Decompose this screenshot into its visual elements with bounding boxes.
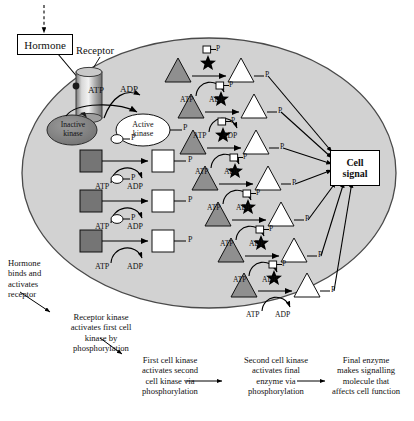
triangle-row-p: P <box>280 143 284 152</box>
triangle-row-catalyst-p: P <box>282 260 286 268</box>
caption-line: Final enzyme <box>321 355 411 365</box>
square-row-adp: ADP <box>127 263 143 272</box>
triangle-row-atp: ATP <box>246 311 260 320</box>
square-row-atp: ATP <box>95 183 109 192</box>
active-kinase-label: Active kinase <box>122 121 164 139</box>
square-row-catalyst-p: P <box>131 134 135 143</box>
caption-line: affects cell function <box>321 386 411 396</box>
square-row-p: P <box>188 196 192 205</box>
caption-line: kinase by <box>47 333 155 343</box>
triangle-row-catalyst-p: P <box>231 117 235 125</box>
caption-receptor-kinase: Receptor kinase activates first cell kin… <box>47 312 155 353</box>
square-row-p: P <box>188 156 192 165</box>
square-row-catalyst-p: P <box>131 174 135 183</box>
square-row-adp: ADP <box>127 183 143 192</box>
caption-line: Hormone <box>8 258 82 268</box>
square-row-catalyst-p: P <box>131 214 135 223</box>
receptor-adp-label: ADP <box>120 84 138 94</box>
cell-signal-box[interactable]: Cell signal <box>330 150 380 186</box>
triangle-row-p: P <box>305 215 309 224</box>
caption-line: Second cell kinase <box>226 355 326 365</box>
caption-line: activates <box>8 279 82 289</box>
triangle-row-p: P <box>331 286 335 295</box>
triangle-row-p: P <box>278 107 282 116</box>
triangle-row-atp: ATP <box>220 240 234 249</box>
triangle-row-p: P <box>265 71 269 80</box>
caption-line: phosphorylation <box>118 386 222 396</box>
caption-line: phosphorylation <box>226 386 326 396</box>
triangle-row-adp: ADP <box>275 311 290 320</box>
caption-line: activates final <box>226 365 326 375</box>
active-kinase-phosphate: P <box>183 124 187 133</box>
caption-line: molecule that <box>321 376 411 386</box>
square-row-adp: ADP <box>127 223 143 232</box>
triangle-row-atp: ATP <box>180 96 194 105</box>
inactive-kinase-line2: kinase <box>52 130 94 139</box>
inactive-kinase-label: Inactive kinase <box>52 121 94 138</box>
square-row-atp: ATP <box>95 263 109 272</box>
caption-line: activates second <box>118 365 222 375</box>
caption-line: binds and <box>8 268 82 278</box>
triangle-row-p: P <box>318 251 322 260</box>
triangle-row-adp: ADP <box>236 204 251 213</box>
caption-first-cell-kinase: First cell kinase activates second cell … <box>118 355 222 396</box>
receptor-label: Receptor <box>76 45 114 57</box>
caption-line: makes signalling <box>321 365 411 375</box>
triangle-row-atp: ATP <box>233 276 247 285</box>
triangle-row-catalyst-p: P <box>243 153 247 161</box>
triangle-row-adp: ADP <box>249 240 264 249</box>
triangle-row-catalyst-p: P <box>269 225 273 233</box>
caption-line: cell kinase via <box>118 376 222 386</box>
triangle-row-catalyst-p: P <box>256 189 260 197</box>
triangle-row-catalyst-p: P <box>229 81 233 89</box>
caption-line: Receptor kinase <box>47 312 155 322</box>
caption-line: activates first cell <box>47 322 155 332</box>
triangle-row-atp: ATP <box>207 204 221 213</box>
triangle-row-adp: ADP <box>262 276 277 285</box>
hormone-box[interactable]: Hormone <box>17 34 73 55</box>
caption-line: receptor <box>8 289 82 299</box>
caption-line: First cell kinase <box>118 355 222 365</box>
square-row-p: P <box>188 236 192 245</box>
caption-line: enzyme via <box>226 376 326 386</box>
caption-second-cell-kinase: Second cell kinase activates final enzym… <box>226 355 326 396</box>
triangle-row-p: P <box>292 179 296 188</box>
cell-signal-line1: Cell <box>346 157 363 169</box>
triangle-row-catalyst-p: P <box>216 45 220 53</box>
active-kinase-line2: kinase <box>122 130 164 139</box>
hormone-label: Hormone <box>24 39 66 51</box>
triangle-row-atp: ATP <box>195 168 209 177</box>
signal-transduction-figure: Hormone Receptor Inactive kinase Active … <box>0 0 414 421</box>
triangle-row-atp: ATP <box>193 132 207 141</box>
triangle-row-adp: ADP <box>209 96 224 105</box>
receptor-atp-label: ATP <box>88 85 104 95</box>
caption-line: phosphorylation <box>47 343 155 353</box>
caption-final-enzyme: Final enzyme makes signalling molecule t… <box>321 355 411 396</box>
square-row-atp: ATP <box>95 223 109 232</box>
triangle-row-adp: ADP <box>222 132 237 141</box>
caption-hormone-binds: Hormone binds and activates receptor <box>8 258 82 299</box>
triangle-row-adp: ADP <box>224 168 239 177</box>
cell-signal-line2: signal <box>342 168 367 180</box>
